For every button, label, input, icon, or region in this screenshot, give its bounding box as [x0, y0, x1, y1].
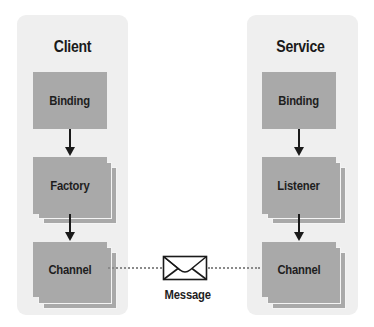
service-channel-label: Channel — [277, 263, 320, 277]
arrowhead-icon — [294, 232, 304, 241]
client-binding-box: Binding — [33, 72, 107, 129]
dotted-connector-right — [208, 267, 260, 269]
service-arrow-listener-channel — [298, 214, 300, 233]
client-title: Client — [24, 38, 122, 56]
service-binding-box: Binding — [262, 72, 336, 129]
envelope-icon — [162, 255, 208, 281]
dotted-connector-left — [108, 267, 162, 269]
client-arrow-factory-channel — [69, 214, 71, 233]
client-channel-label: Channel — [48, 263, 91, 277]
client-factory-box: Factory — [33, 157, 107, 214]
message-label: Message — [165, 288, 211, 302]
service-title: Service — [252, 38, 350, 56]
client-channel-box: Channel — [33, 242, 107, 297]
service-arrow-binding-listener — [298, 129, 300, 148]
service-listener-label: Listener — [278, 179, 320, 193]
arrowhead-icon — [65, 232, 75, 241]
service-channel-box: Channel — [262, 242, 336, 297]
arrowhead-icon — [65, 147, 75, 156]
service-binding-label: Binding — [279, 94, 320, 108]
client-binding-label: Binding — [50, 94, 91, 108]
arrowhead-icon — [294, 147, 304, 156]
client-factory-label: Factory — [50, 179, 89, 193]
service-listener-box: Listener — [262, 157, 336, 214]
client-arrow-binding-factory — [69, 129, 71, 148]
